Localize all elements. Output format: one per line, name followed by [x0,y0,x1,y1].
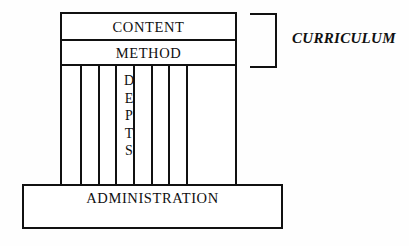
pillar-divider-1 [80,66,82,185]
method-box: METHOD [60,39,237,66]
pillar-divider-3 [115,66,117,185]
administration-box: ADMINISTRATION [22,184,283,229]
diagram-canvas: CONTENT METHOD D E P T S ADMINISTRATION … [0,0,409,246]
depts-letter-4: T [118,125,140,143]
depts-label: D E P T S [118,72,140,160]
administration-box-label: ADMINISTRATION [24,189,281,209]
pillar-divider-6 [168,66,170,185]
pillar-band [60,64,237,185]
depts-letter-1: D [118,72,140,90]
depts-letter-5: S [118,142,140,160]
content-box-label: CONTENT [62,19,235,34]
pillar-divider-7 [186,66,188,185]
depts-letter-3: P [118,107,140,125]
curriculum-bracket-icon [250,13,277,68]
method-box-label: METHOD [62,45,235,60]
depts-letter-2: E [118,90,140,108]
pillar-divider-5 [151,66,153,185]
pillar-divider-2 [98,66,100,185]
curriculum-label: CURRICULUM [292,30,396,47]
content-box: CONTENT [60,12,237,41]
